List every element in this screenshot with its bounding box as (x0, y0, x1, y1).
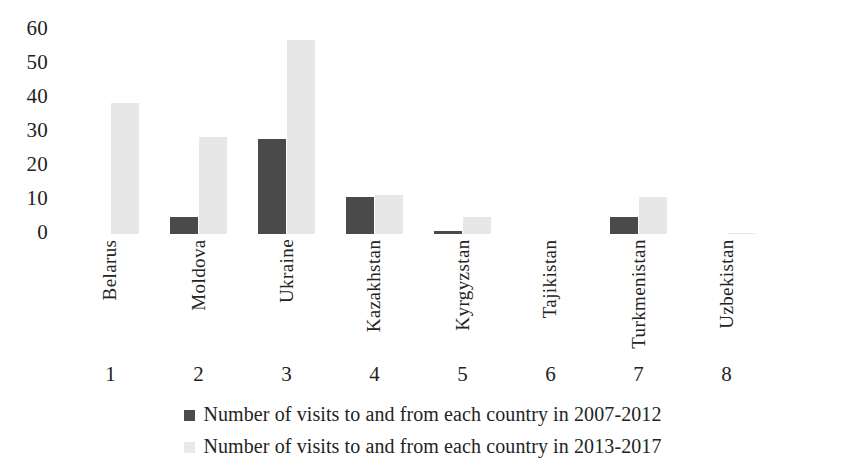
bar-group-bars (346, 0, 434, 234)
bar-group (82, 0, 170, 234)
bar-group-bars (258, 0, 346, 234)
legend-swatch-icon (184, 410, 195, 421)
bar-group (610, 0, 698, 234)
category-index-6: 6 (531, 362, 571, 386)
category-index-8: 8 (707, 362, 747, 386)
bar-series-2-belarus (111, 103, 139, 234)
bar-group (170, 0, 258, 234)
bar-chart: 6050403020100 BelarusMoldovaUkraineKazak… (0, 0, 846, 467)
bar-group-bars (610, 0, 698, 234)
category-axis-labels: BelarusMoldovaUkraineKazakhstanKyrgyzsta… (60, 236, 846, 358)
y-axis-tick-10: 10 (0, 188, 48, 209)
bar-series-1-moldova (170, 217, 198, 234)
bar-series-1-kyrgyzstan (434, 231, 462, 234)
category-index-1: 1 (91, 362, 131, 386)
bar-group (346, 0, 434, 234)
category-label-text: Turkmenistan (628, 239, 650, 349)
y-axis-tick-50: 50 (0, 52, 48, 73)
bar-group (698, 0, 786, 234)
bar-series-2-moldova (199, 137, 227, 234)
plot-area (60, 0, 846, 234)
bar-series-1-ukraine (258, 139, 286, 234)
category-label-kyrgyzstan: Kyrgyzstan (450, 236, 476, 358)
bar-group-bars (82, 0, 170, 234)
y-axis-tick-40: 40 (0, 86, 48, 107)
category-index-3: 3 (267, 362, 307, 386)
bar-group-bars (434, 0, 522, 234)
category-label-text: Kyrgyzstan (452, 239, 474, 330)
bar-group-bars (522, 0, 610, 234)
category-label-kazakhstan: Kazakhstan (362, 236, 388, 358)
bar-group (522, 0, 610, 234)
bar-series-1-kazakhstan (346, 197, 374, 234)
category-label-text: Kazakhstan (364, 239, 386, 332)
category-index-4: 4 (355, 362, 395, 386)
bar-group-bars (698, 0, 786, 234)
category-label-uzbekistan: Uzbekistan (714, 236, 740, 358)
category-index-7: 7 (619, 362, 659, 386)
y-axis: 6050403020100 (0, 0, 58, 250)
y-axis-tick-0: 0 (0, 222, 48, 243)
bar-group (434, 0, 522, 234)
legend-item-1[interactable]: Number of visits to and from each countr… (0, 398, 846, 430)
category-label-ukraine: Ukraine (274, 236, 300, 358)
category-label-text: Belarus (100, 239, 122, 300)
legend-item-label: Number of visits to and from each countr… (203, 434, 661, 458)
category-label-moldova: Moldova (186, 236, 212, 358)
bar-group-bars (170, 0, 258, 234)
category-label-belarus: Belarus (98, 236, 124, 358)
y-axis-tick-30: 30 (0, 120, 48, 141)
category-label-text: Ukraine (276, 239, 298, 303)
y-axis-tick-60: 60 (0, 18, 48, 39)
chart-legend: Number of visits to and from each countr… (0, 398, 846, 462)
category-label-text: Tajikistan (540, 239, 562, 318)
category-label-tajikistan: Tajikistan (538, 236, 564, 358)
bar-series-2-kyrgyzstan (463, 217, 491, 234)
category-index-labels: 12345678 (60, 362, 846, 390)
category-index-2: 2 (179, 362, 219, 386)
y-axis-tick-20: 20 (0, 154, 48, 175)
bar-group (258, 0, 346, 234)
legend-swatch-icon (184, 442, 195, 453)
legend-item-label: Number of visits to and from each countr… (203, 402, 661, 426)
category-label-text: Uzbekistan (716, 239, 738, 328)
bar-series-2-kazakhstan (375, 195, 403, 234)
bar-series-2-turkmenistan (639, 197, 667, 234)
category-label-turkmenistan: Turkmenistan (626, 236, 652, 358)
bar-series-1-turkmenistan (610, 217, 638, 234)
category-label-text: Moldova (188, 239, 210, 310)
legend-item-2[interactable]: Number of visits to and from each countr… (0, 430, 846, 462)
bar-series-2-uzbekistan (727, 233, 755, 234)
bar-series-2-ukraine (287, 40, 315, 234)
category-index-5: 5 (443, 362, 483, 386)
